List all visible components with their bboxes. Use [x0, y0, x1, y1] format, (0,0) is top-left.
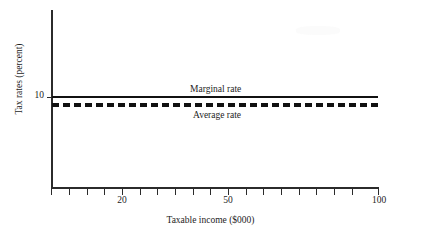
x-axis-tick [51, 189, 52, 195]
x-axis-tick [334, 189, 335, 195]
x-axis-tick [210, 189, 211, 195]
x-axis-title: Taxable income ($000) [0, 215, 421, 225]
scan-artifact [296, 26, 340, 35]
x-axis-tick [299, 189, 300, 195]
x-axis-tick [263, 189, 264, 195]
x-axis-tick [246, 189, 247, 195]
x-axis-line [51, 187, 379, 189]
y-tick-label-10: 10 [29, 91, 44, 101]
y-axis-line [51, 10, 53, 189]
series-average-rate-line [52, 103, 378, 107]
x-axis-tick [281, 189, 282, 195]
x-axis-tick [140, 189, 141, 195]
x-tick-label-100: 100 [364, 196, 394, 206]
x-tick-label-20: 20 [107, 196, 137, 206]
x-axis-tick [175, 189, 176, 195]
x-axis-tick [193, 189, 194, 195]
y-axis-title: Tax rates (percent) [14, 19, 24, 139]
x-axis-tick [157, 189, 158, 195]
x-axis-tick [87, 189, 88, 195]
x-axis-tick [352, 189, 353, 195]
series-label-marginal-rate: Marginal rate [190, 85, 241, 95]
x-tick-label-50: 50 [213, 196, 243, 206]
x-axis-tick [104, 189, 105, 195]
series-label-average-rate: Average rate [193, 111, 241, 121]
x-axis-tick [69, 189, 70, 195]
x-axis-tick [316, 189, 317, 195]
tax-rate-chart-figure: Marginal rate Average rate 20 50 100 10 … [0, 0, 421, 238]
series-marginal-rate-line [52, 96, 378, 98]
